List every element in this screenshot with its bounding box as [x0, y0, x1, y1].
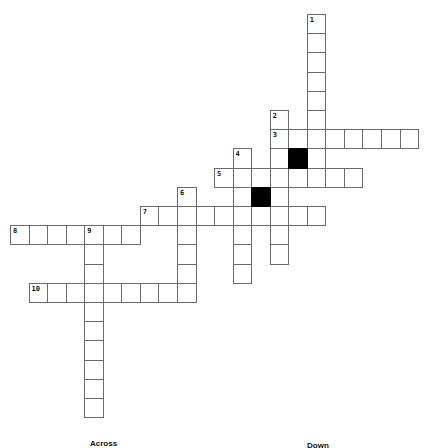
letter-cell[interactable] [29, 225, 49, 245]
letter-cell[interactable] [140, 283, 160, 303]
clue-number: 3 [273, 132, 277, 139]
clue-number: 6 [180, 190, 184, 197]
letter-cell[interactable] [84, 321, 104, 341]
letter-cell[interactable]: 3 [270, 129, 290, 149]
letter-cell[interactable] [103, 225, 123, 245]
letter-cell[interactable] [307, 91, 327, 111]
clue-number: 1 [310, 17, 314, 24]
letter-cell[interactable] [288, 206, 308, 226]
letter-cell[interactable] [177, 264, 197, 284]
letter-cell[interactable] [233, 187, 253, 207]
letter-cell[interactable]: 4 [233, 148, 253, 168]
letter-cell[interactable]: 7 [140, 206, 160, 226]
letter-cell[interactable] [307, 168, 327, 188]
black-cell [288, 148, 308, 168]
letter-cell[interactable]: 5 [214, 168, 234, 188]
letter-cell[interactable] [307, 33, 327, 53]
letter-cell[interactable] [84, 360, 104, 380]
letter-cell[interactable] [307, 72, 327, 92]
letter-cell[interactable] [307, 129, 327, 149]
letter-cell[interactable] [84, 264, 104, 284]
letter-cell[interactable] [307, 52, 327, 72]
down-clues-heading: Down [307, 441, 329, 448]
letter-cell[interactable] [177, 206, 197, 226]
black-cell [251, 187, 271, 207]
letter-cell[interactable] [270, 244, 290, 264]
letter-cell[interactable] [270, 168, 290, 188]
letter-cell[interactable] [47, 225, 67, 245]
letter-cell[interactable] [233, 264, 253, 284]
letter-cell[interactable] [288, 129, 308, 149]
letter-cell[interactable]: 2 [270, 110, 290, 130]
letter-cell[interactable] [84, 283, 104, 303]
letter-cell[interactable] [84, 340, 104, 360]
letter-cell[interactable] [381, 129, 401, 149]
letter-cell[interactable] [84, 379, 104, 399]
clue-number: 10 [32, 286, 40, 293]
letter-cell[interactable] [251, 206, 271, 226]
letter-cell[interactable] [196, 206, 216, 226]
letter-cell[interactable] [400, 129, 420, 149]
letter-cell[interactable] [158, 283, 178, 303]
letter-cell[interactable] [121, 225, 141, 245]
letter-cell[interactable] [84, 302, 104, 322]
letter-cell[interactable] [121, 283, 141, 303]
letter-cell[interactable] [177, 283, 197, 303]
clue-number: 5 [217, 171, 221, 178]
clue-number: 8 [13, 228, 17, 235]
letter-cell[interactable] [214, 206, 234, 226]
across-clues-heading: Across [90, 439, 117, 448]
letter-cell[interactable] [307, 110, 327, 130]
letter-cell[interactable] [233, 244, 253, 264]
letter-cell[interactable] [325, 168, 345, 188]
letter-cell[interactable] [103, 283, 123, 303]
letter-cell[interactable]: 6 [177, 187, 197, 207]
letter-cell[interactable] [270, 225, 290, 245]
letter-cell[interactable] [47, 283, 67, 303]
letter-cell[interactable] [325, 129, 345, 149]
letter-cell[interactable] [307, 206, 327, 226]
letter-cell[interactable] [233, 168, 253, 188]
letter-cell[interactable]: 1 [307, 14, 327, 34]
letter-cell[interactable]: 10 [29, 283, 49, 303]
clue-number: 7 [143, 209, 147, 216]
letter-cell[interactable] [270, 148, 290, 168]
clue-number: 2 [273, 113, 277, 120]
letter-cell[interactable] [344, 129, 364, 149]
letter-cell[interactable] [362, 129, 382, 149]
letter-cell[interactable] [270, 187, 290, 207]
letter-cell[interactable] [270, 206, 290, 226]
letter-cell[interactable] [66, 225, 86, 245]
letter-cell[interactable] [177, 244, 197, 264]
letter-cell[interactable] [233, 225, 253, 245]
letter-cell[interactable]: 8 [10, 225, 30, 245]
letter-cell[interactable]: 9 [84, 225, 104, 245]
letter-cell[interactable] [66, 283, 86, 303]
clue-number: 4 [236, 151, 240, 158]
crossword-grid: 12345678910 [0, 0, 426, 448]
letter-cell[interactable] [288, 168, 308, 188]
clue-number: 9 [87, 228, 91, 235]
letter-cell[interactable] [251, 168, 271, 188]
letter-cell[interactable] [84, 398, 104, 418]
letter-cell[interactable] [158, 206, 178, 226]
letter-cell[interactable] [84, 244, 104, 264]
letter-cell[interactable] [307, 148, 327, 168]
letter-cell[interactable] [233, 206, 253, 226]
letter-cell[interactable] [177, 225, 197, 245]
letter-cell[interactable] [344, 168, 364, 188]
